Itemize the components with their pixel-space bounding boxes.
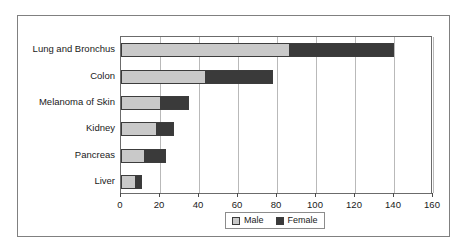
x-tick-label: 40 <box>193 199 204 210</box>
x-tick-mark <box>315 193 316 197</box>
bar-segment-female <box>156 122 174 136</box>
bar-segment-female <box>289 43 394 57</box>
x-tick-mark <box>159 193 160 197</box>
x-tick-label: 0 <box>117 199 122 210</box>
x-tick-mark <box>354 193 355 197</box>
female-swatch <box>276 217 284 225</box>
bar-segment-male <box>121 70 205 84</box>
bar-segment-female <box>135 175 143 189</box>
male-swatch <box>232 217 240 225</box>
x-tick-mark <box>120 193 121 197</box>
x-tick-mark <box>237 193 238 197</box>
gridline <box>277 37 278 193</box>
x-tick-mark <box>432 193 433 197</box>
y-axis-category-labels: Lung and BronchusColonMelanoma of SkinKi… <box>0 36 120 194</box>
x-tick-label: 140 <box>385 199 401 210</box>
bar-row <box>121 175 142 189</box>
bar-row <box>121 96 189 110</box>
y-axis-label-lung-and-bronchus: Lung and Bronchus <box>4 42 120 56</box>
bar-segment-male <box>121 122 156 136</box>
legend-label: Female <box>288 215 318 226</box>
y-axis-label-melanoma-of-skin: Melanoma of Skin <box>4 95 120 109</box>
bar-segment-female <box>160 96 189 110</box>
bar-row <box>121 70 273 84</box>
bar-segment-male <box>121 96 160 110</box>
x-tick-mark <box>198 193 199 197</box>
y-axis-label-liver: Liver <box>4 174 120 188</box>
x-tick-label: 120 <box>346 199 362 210</box>
gridline <box>394 37 395 193</box>
x-tick-mark <box>393 193 394 197</box>
bar-row <box>121 122 174 136</box>
y-axis-label-colon: Colon <box>4 69 120 83</box>
chart-legend: MaleFemale <box>225 212 325 229</box>
x-tick-mark <box>276 193 277 197</box>
y-axis-label-pancreas: Pancreas <box>4 148 120 162</box>
legend-label: Male <box>244 215 264 226</box>
x-tick-label: 160 <box>424 199 440 210</box>
bar-row <box>121 149 166 163</box>
x-tick-label: 100 <box>307 199 323 210</box>
gridline <box>355 37 356 193</box>
x-tick-label: 60 <box>232 199 243 210</box>
bar-segment-male <box>121 43 289 57</box>
x-axis-ticks: 020406080100120140160 <box>0 196 461 212</box>
bar-segment-male <box>121 149 144 163</box>
bar-row <box>121 43 394 57</box>
legend-item-female: Female <box>276 215 318 226</box>
bar-segment-female <box>205 70 273 84</box>
gridline <box>199 37 200 193</box>
x-tick-label: 20 <box>154 199 165 210</box>
gridline <box>238 37 239 193</box>
plot-area <box>120 36 432 194</box>
gridline <box>160 37 161 193</box>
bar-segment-male <box>121 175 135 189</box>
gridline <box>433 37 434 193</box>
gridline <box>316 37 317 193</box>
bar-segment-female <box>144 149 165 163</box>
y-axis-label-kidney: Kidney <box>4 121 120 135</box>
x-tick-label: 80 <box>271 199 282 210</box>
legend-item-male: Male <box>232 215 264 226</box>
